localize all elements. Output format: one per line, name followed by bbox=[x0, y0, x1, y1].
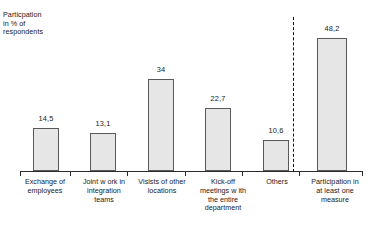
bar-value-label: 34 bbox=[137, 65, 185, 74]
bar bbox=[33, 128, 59, 171]
x-axis-category-label: Visists of other locations bbox=[128, 178, 196, 196]
bar bbox=[90, 133, 116, 171]
bar-value-label: 13,1 bbox=[79, 119, 127, 128]
axis-tick bbox=[242, 172, 243, 176]
bar-value-label: 14,5 bbox=[22, 114, 70, 123]
bar-value-label: 22,7 bbox=[194, 94, 242, 103]
x-axis-category-label: Exchange of employees bbox=[14, 178, 76, 196]
x-axis-category-label: Kick-off meetings w ith the entire depar… bbox=[190, 178, 256, 213]
x-axis-line bbox=[20, 171, 363, 172]
axis-tick bbox=[127, 172, 128, 176]
x-axis-category-label: Others bbox=[248, 178, 306, 187]
bar bbox=[148, 79, 174, 171]
axis-tick bbox=[299, 172, 300, 176]
bar-chart-figure: Particpation in % of respondents 14,5 13… bbox=[0, 0, 371, 228]
x-axis-category-label: Participation in at least one measure bbox=[302, 178, 368, 204]
plot-area: 14,5 13,1 34 22,7 10,6 48,2 Exchange of … bbox=[0, 0, 371, 228]
bar bbox=[263, 140, 289, 171]
axis-tick bbox=[362, 172, 363, 176]
bar-value-label: 48,2 bbox=[308, 24, 356, 33]
axis-tick bbox=[70, 172, 71, 176]
x-axis-category-label: Joint w ork in integration teams bbox=[73, 178, 135, 204]
separator-dashed-line bbox=[293, 17, 294, 172]
axis-tick bbox=[185, 172, 186, 176]
bar bbox=[205, 108, 231, 171]
bar bbox=[317, 38, 347, 171]
axis-tick bbox=[20, 172, 21, 176]
